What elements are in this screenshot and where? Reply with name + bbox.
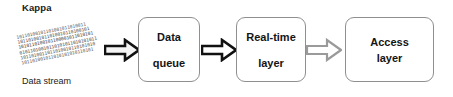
arrow-realtime-to-access-icon bbox=[306, 38, 342, 62]
binary-data-stream-icon: 10110100101101001011010011 1011010010110… bbox=[16, 20, 99, 66]
node-label-line: layer bbox=[377, 52, 403, 64]
kappa-architecture-diagram: Kappa 10110100101101001011010011 1011010… bbox=[0, 0, 453, 97]
node-label-line: layer bbox=[258, 57, 284, 69]
diagram-title: Kappa bbox=[22, 2, 52, 13]
arrow-queue-to-realtime-icon bbox=[201, 38, 237, 62]
node-label-line: queue bbox=[153, 57, 185, 69]
data-stream-label: Data stream bbox=[22, 76, 71, 86]
node-label-line: Access bbox=[370, 36, 409, 48]
node-access-layer[interactable]: Access layer bbox=[345, 17, 434, 82]
node-real-time-layer[interactable]: Real-time layer bbox=[236, 17, 306, 82]
data-stream-graphic: 10110100101101001011010011 1011010010110… bbox=[12, 24, 108, 66]
node-label-line: Data bbox=[157, 31, 181, 43]
arrow-stream-to-queue-icon bbox=[104, 38, 140, 62]
node-data-queue[interactable]: Data queue bbox=[138, 17, 200, 82]
node-label-line: Real-time bbox=[246, 31, 296, 43]
